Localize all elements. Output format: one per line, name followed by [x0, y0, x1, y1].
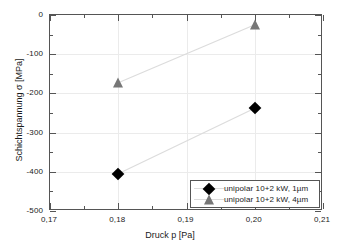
x-axis-title: Druck p [Pa]	[0, 230, 340, 240]
y-axis-tick	[315, 211, 321, 212]
x-axis-tick	[323, 203, 324, 209]
x-tick-label: 0,18	[109, 215, 125, 224]
data-point-triangle	[113, 77, 123, 87]
x-axis-tick	[323, 15, 324, 21]
x-tick-label: 0,17	[41, 215, 57, 224]
chart-legend: unipolar 10+2 kW, 1µmunipolar 10+2 kW, 4…	[190, 180, 320, 208]
legend-marker-sample	[194, 194, 224, 205]
legend-item[interactable]: unipolar 10+2 kW, 4µm	[194, 194, 316, 205]
x-tick-label: 0,21	[314, 215, 330, 224]
legend-triangle-icon	[204, 194, 214, 204]
y-axis-title: Schichtspannung σ [MPa]	[14, 10, 24, 210]
legend-item-label: unipolar 10+2 kW, 4µm	[224, 195, 308, 204]
series-line	[118, 108, 255, 173]
data-point-triangle	[250, 19, 260, 29]
x-tick-label: 0,20	[246, 215, 262, 224]
y-axis-tick	[50, 211, 56, 212]
legend-item-label: unipolar 10+2 kW, 1µm	[224, 184, 308, 193]
legend-marker-sample	[194, 183, 224, 194]
chart-figure: 0,170,180,190,200,21 0-100-200-300-400-5…	[0, 0, 340, 252]
series-line	[118, 25, 255, 83]
legend-item[interactable]: unipolar 10+2 kW, 1µm	[194, 183, 316, 194]
legend-diamond-icon	[203, 182, 216, 195]
x-tick-label: 0,19	[178, 215, 194, 224]
